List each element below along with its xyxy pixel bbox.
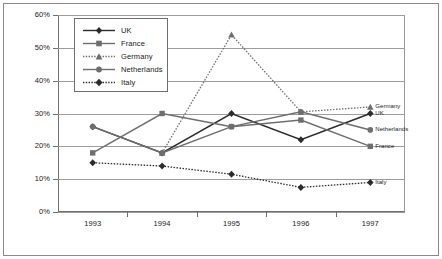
- series-end-label: Germany: [375, 103, 400, 110]
- series-end-label: UK: [375, 110, 383, 117]
- data-point-marker: [367, 110, 374, 117]
- series-line: [93, 112, 371, 153]
- series-end-label: France: [375, 143, 394, 150]
- data-point-marker: [229, 124, 235, 130]
- data-point-marker: [368, 127, 374, 133]
- data-point-marker: [90, 150, 95, 155]
- legend-symbol-uk: [82, 25, 116, 36]
- y-axis-tick-label: 50%: [35, 44, 50, 52]
- data-point-marker: [367, 104, 374, 110]
- data-point-marker: [228, 32, 235, 38]
- data-point-marker: [159, 150, 165, 156]
- legend-item-netherlands: Netherlands: [82, 63, 161, 76]
- y-axis-tick-label: 40%: [35, 77, 50, 85]
- x-axis-tick-label: 1994: [154, 219, 171, 228]
- x-axis-tick: [336, 212, 337, 217]
- data-point-marker: [228, 110, 235, 117]
- x-axis-tick: [197, 212, 198, 217]
- y-axis-tick: [53, 212, 58, 213]
- data-point-marker: [298, 109, 304, 115]
- y-axis-tick-label: 60%: [35, 11, 50, 19]
- x-axis-tick-label: 1997: [362, 219, 379, 228]
- y-axis-tick-label: 30%: [35, 110, 50, 118]
- gridline: [58, 212, 405, 213]
- chart-container: 0%10%20%30%40%50%60% 1993199419951996199…: [0, 0, 442, 259]
- legend-label-italy: Italy: [121, 78, 135, 87]
- legend-item-italy: Italy: [82, 76, 161, 89]
- x-axis-tick-label: 1993: [84, 219, 101, 228]
- legend-symbol-netherlands: [82, 64, 116, 75]
- y-axis-tick-label: 10%: [35, 175, 50, 183]
- x-axis-tick: [266, 212, 267, 217]
- legend-symbol-germany: [82, 51, 116, 62]
- data-point-marker: [367, 179, 374, 186]
- data-point-marker: [159, 163, 166, 170]
- data-point-marker: [90, 124, 96, 130]
- series-end-label: Netherlands: [375, 126, 408, 133]
- legend-item-france: France: [82, 37, 161, 50]
- legend-item-germany: Germany: [82, 50, 161, 63]
- legend-item-uk: UK: [82, 24, 161, 37]
- data-point-marker: [159, 111, 164, 116]
- x-axis-tick: [127, 212, 128, 217]
- chart-legend: UK France Germany Netherlands: [74, 18, 168, 92]
- data-point-marker: [298, 136, 305, 143]
- y-axis-tick-label: 0%: [39, 208, 50, 216]
- data-point-marker: [298, 184, 305, 191]
- legend-label-uk: UK: [121, 26, 132, 35]
- y-axis-tick-label: 20%: [35, 142, 50, 150]
- legend-symbol-france: [82, 38, 116, 49]
- data-point-marker: [228, 171, 235, 178]
- legend-label-france: France: [121, 39, 145, 48]
- data-point-marker: [89, 159, 96, 166]
- legend-label-netherlands: Netherlands: [121, 65, 163, 74]
- data-point-marker: [368, 144, 373, 149]
- x-axis-tick-label: 1995: [223, 219, 240, 228]
- legend-symbol-italy: [82, 77, 116, 88]
- data-point-marker: [298, 117, 303, 122]
- series-end-label: Italy: [375, 179, 386, 186]
- x-axis-tick-label: 1996: [292, 219, 309, 228]
- legend-label-germany: Germany: [121, 52, 153, 61]
